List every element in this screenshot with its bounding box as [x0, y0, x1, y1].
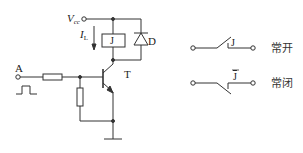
input-label: A: [15, 62, 23, 74]
current-arrow-icon: [92, 26, 96, 50]
input-line: [16, 74, 103, 80]
normally-open-text: 常开: [271, 42, 293, 55]
current-label: IL: [79, 28, 88, 42]
pulldown-resistor: [77, 77, 115, 123]
relay-driver-diagram: Vcc IL J D T A J J 常开 常闭: [0, 0, 303, 153]
ground-icon: [104, 121, 122, 139]
vcc-rail: [82, 17, 141, 21]
vcc-label: Vcc: [67, 12, 81, 26]
transistor-label: T: [124, 68, 131, 80]
normally-closed-text: 常闭: [271, 77, 293, 90]
no-contact-label: J: [231, 37, 235, 48]
nc-contact-label: J: [233, 71, 237, 82]
normally-open-contact-icon: [191, 37, 255, 50]
circuit-drawing: Vcc IL J D T A J J 常开 常闭: [0, 0, 303, 153]
normally-closed-contact-icon: [191, 81, 255, 94]
base-resistor: [43, 74, 62, 80]
diode-label: D: [148, 35, 156, 47]
pulse-icon: [16, 86, 37, 94]
relay-label: J: [110, 35, 114, 46]
input-terminal: [16, 75, 20, 79]
npn-transistor: [103, 60, 113, 121]
vcc-terminal: [82, 17, 86, 21]
